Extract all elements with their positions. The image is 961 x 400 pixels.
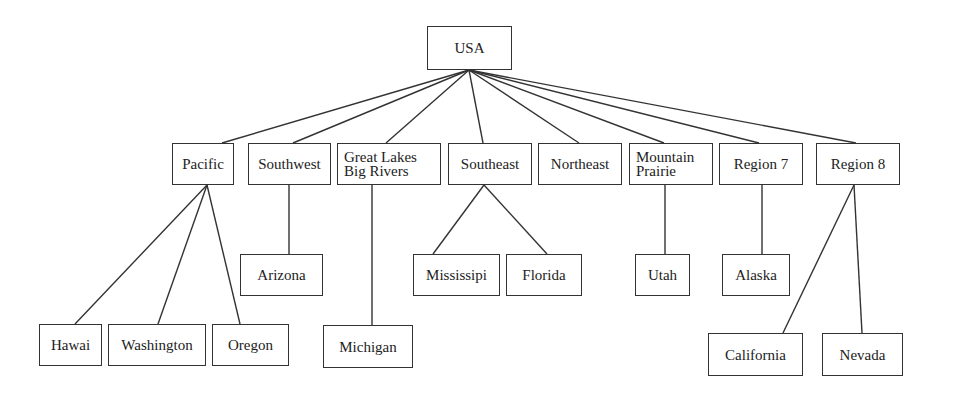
node-label: Michigan bbox=[339, 340, 397, 354]
tree-edge bbox=[222, 70, 469, 143]
tree-edge bbox=[783, 185, 854, 333]
node-greatlakes: Great LakesBig Rivers bbox=[337, 143, 441, 185]
node-usa: USA bbox=[427, 26, 512, 70]
tree-edge bbox=[75, 185, 207, 324]
node-california: California bbox=[708, 333, 803, 376]
tree-edge bbox=[484, 185, 547, 254]
node-label-line2: Big Rivers bbox=[344, 164, 409, 178]
tree-edge bbox=[469, 70, 483, 143]
node-label: Southwest bbox=[258, 157, 321, 171]
node-mississipi: Mississipi bbox=[413, 254, 500, 296]
node-label: Florida bbox=[522, 268, 565, 282]
node-arizona: Arizona bbox=[240, 254, 323, 296]
node-label: Region 8 bbox=[831, 157, 886, 171]
node-label: Pacific bbox=[182, 157, 224, 171]
node-label: Washington bbox=[121, 338, 192, 352]
node-label: USA bbox=[454, 41, 484, 55]
node-florida: Florida bbox=[506, 254, 582, 296]
node-label: Region 7 bbox=[734, 157, 789, 171]
node-label-line2: Prairie bbox=[636, 164, 676, 178]
node-label: Nevada bbox=[840, 348, 886, 362]
node-utah: Utah bbox=[635, 254, 690, 296]
node-label: Mountain bbox=[636, 150, 694, 164]
tree-edge bbox=[293, 70, 469, 143]
node-michigan: Michigan bbox=[323, 325, 413, 368]
node-label: Great Lakes bbox=[344, 150, 417, 164]
node-southwest: Southwest bbox=[248, 143, 331, 185]
tree-edge bbox=[386, 70, 469, 143]
tree-edge bbox=[469, 70, 759, 143]
node-label: Hawai bbox=[51, 338, 90, 352]
node-region7: Region 7 bbox=[719, 143, 803, 185]
node-label: California bbox=[725, 348, 786, 362]
node-northeast: Northeast bbox=[538, 143, 622, 185]
node-pacific: Pacific bbox=[172, 143, 234, 185]
node-washington: Washington bbox=[108, 324, 206, 366]
node-oregon: Oregon bbox=[212, 324, 289, 366]
tree-edge bbox=[207, 185, 240, 324]
node-label: Southeast bbox=[461, 157, 519, 171]
node-region8: Region 8 bbox=[816, 143, 900, 185]
node-label: Alaska bbox=[735, 268, 777, 282]
node-hawai: Hawai bbox=[39, 324, 102, 366]
node-label: Northeast bbox=[551, 157, 609, 171]
node-label: Arizona bbox=[257, 268, 305, 282]
node-southeast: Southeast bbox=[448, 143, 532, 185]
node-label: Oregon bbox=[228, 338, 273, 352]
tree-edge bbox=[433, 185, 484, 254]
node-label: Utah bbox=[648, 268, 677, 282]
tree-edge bbox=[469, 70, 664, 143]
node-alaska: Alaska bbox=[722, 254, 790, 296]
node-label: Mississipi bbox=[426, 268, 487, 282]
tree-edge bbox=[469, 70, 856, 143]
node-nevada: Nevada bbox=[822, 333, 903, 376]
node-mountain: MountainPrairie bbox=[629, 143, 713, 185]
tree-edge bbox=[854, 185, 862, 333]
tree-edge bbox=[158, 185, 207, 324]
